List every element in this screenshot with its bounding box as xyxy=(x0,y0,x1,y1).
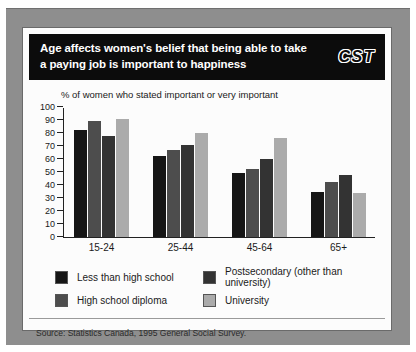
cst-logo: CST xyxy=(339,48,376,66)
y-axis-tick-mark xyxy=(57,184,63,185)
bar-groups: 15-2425-4445-6465+ xyxy=(64,108,375,237)
y-axis-tick-mark xyxy=(57,236,63,237)
y-axis-tick-label: 80 xyxy=(31,128,55,138)
legend-swatch xyxy=(203,294,216,307)
bar xyxy=(260,159,273,237)
chart-card: Age affects women's belief that being ab… xyxy=(22,27,392,331)
legend-swatch xyxy=(55,271,68,284)
legend-label: Less than high school xyxy=(77,272,174,283)
bar-group-45-64: 45-64 xyxy=(232,138,287,237)
y-axis-tick-mark xyxy=(57,223,63,224)
y-axis-tick-mark xyxy=(57,145,63,146)
title-line-1: Age affects women's belief that being ab… xyxy=(40,41,307,57)
legend: Less than high schoolHigh school diploma… xyxy=(55,266,385,307)
y-axis-tick-label: 90 xyxy=(31,115,55,125)
y-axis-tick-label: 20 xyxy=(31,206,55,216)
legend-swatch xyxy=(203,271,216,284)
plot-area: 010203040506070809010015-2425-4445-6465+ xyxy=(63,108,375,238)
y-axis-tick-mark xyxy=(57,171,63,172)
y-axis-tick-label: 10 xyxy=(31,219,55,229)
legend-item: Postsecondary (other than university) xyxy=(203,266,385,288)
legend-label: University xyxy=(225,295,269,306)
legend-item: Less than high school xyxy=(55,266,203,288)
y-axis-tick-label: 0 xyxy=(31,232,55,242)
y-axis-tick-label: 60 xyxy=(31,154,55,164)
x-axis-label: 65+ xyxy=(330,242,347,253)
legend-swatch xyxy=(55,294,68,307)
y-axis-tick-mark xyxy=(57,132,63,133)
bar xyxy=(195,133,208,237)
bar xyxy=(116,119,129,237)
page-title: Age affects women's belief that being ab… xyxy=(40,41,307,72)
y-axis-tick-mark xyxy=(57,106,63,107)
title-bar: Age affects women's belief that being ab… xyxy=(29,34,385,80)
bar xyxy=(74,130,87,237)
bar xyxy=(353,193,366,237)
legend-label: High school diploma xyxy=(77,295,167,306)
y-axis-tick-label: 100 xyxy=(31,102,55,112)
y-axis-tick-mark xyxy=(57,197,63,198)
legend-label: Postsecondary (other than university) xyxy=(225,266,385,288)
y-axis-tick-label: 30 xyxy=(31,193,55,203)
source-strip: Source: Statistics Canada, 1995 General … xyxy=(29,318,385,338)
bar xyxy=(153,156,166,237)
y-axis-tick-label: 50 xyxy=(31,167,55,177)
legend-item: High school diploma xyxy=(55,294,203,307)
y-axis-tick-mark xyxy=(57,119,63,120)
x-axis-label: 25-44 xyxy=(168,242,194,253)
bar xyxy=(167,150,180,237)
x-axis-label: 15-24 xyxy=(89,242,115,253)
title-line-2: a paying job is important to happiness xyxy=(40,57,307,73)
bar-group-25-44: 25-44 xyxy=(153,133,208,237)
bar xyxy=(325,182,338,237)
x-axis-label: 45-64 xyxy=(247,242,273,253)
bar xyxy=(181,145,194,237)
bar-group-65+: 65+ xyxy=(311,175,366,237)
legend-item: University xyxy=(203,294,385,307)
bar xyxy=(274,138,287,237)
source-note: Source: Statistics Canada, 1995 General … xyxy=(36,328,385,338)
y-axis-tick-mark xyxy=(57,210,63,211)
bar xyxy=(311,192,324,238)
bar-group-15-24: 15-24 xyxy=(74,119,129,237)
bar xyxy=(339,175,352,237)
bar xyxy=(246,169,259,237)
y-axis-tick-label: 40 xyxy=(31,180,55,190)
bar xyxy=(88,121,101,237)
y-axis-tick-mark xyxy=(57,158,63,159)
y-axis-tick-label: 70 xyxy=(31,141,55,151)
bar xyxy=(232,173,245,237)
chart-subtitle: % of women who stated important or very … xyxy=(61,89,385,100)
chart: 010203040506070809010015-2425-4445-6465+ xyxy=(63,108,385,238)
window-frame: Age affects women's belief that being ab… xyxy=(6,8,410,345)
bar xyxy=(102,136,115,237)
